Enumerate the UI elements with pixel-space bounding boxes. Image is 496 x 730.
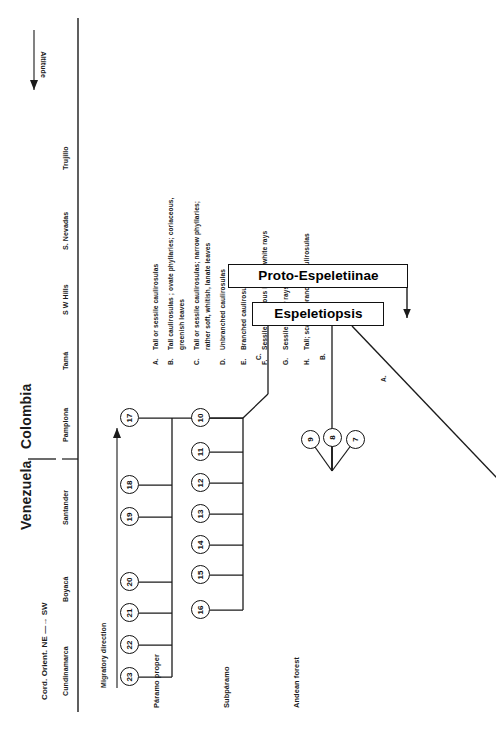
node-7[interactable]: 7 xyxy=(346,430,365,449)
box-espeletiopsis-label: Espeletiopsis xyxy=(274,307,362,322)
key-text-f: Sessile; sericeous leaves, white rays xyxy=(261,231,268,350)
key-letter-b: B. xyxy=(167,358,174,365)
key-text-e: Branched caulirosulas xyxy=(240,277,247,350)
region-label-cundinamarca: Cundinamarca xyxy=(62,646,69,696)
cordillera-header: Cord. Orient. NE —→ SW xyxy=(40,602,49,700)
key-letter-d: D. xyxy=(219,358,226,365)
country-label-venezuela: Venezuela xyxy=(18,460,34,530)
node-8[interactable]: 8 xyxy=(323,428,342,447)
zone-label-subparamo: Subpáramo xyxy=(222,666,231,708)
branch-label-c: C. xyxy=(255,353,262,360)
region-label-tama: Tamá xyxy=(62,352,69,370)
region-label-trujillo: Trujillo xyxy=(62,146,69,170)
box-proto-espeletiinae-label: Proto-Espeletiinae xyxy=(258,268,378,283)
migratory-direction-label: Migratory direction xyxy=(100,623,107,688)
region-label-santander: Santander xyxy=(62,490,69,525)
figure-canvas: Venezuela Colombia Cord. Orient. NE —→ S… xyxy=(0,0,496,730)
node-9[interactable]: 9 xyxy=(301,430,320,449)
key-letter-f: F. xyxy=(261,360,268,365)
box-proto-espeletiinae[interactable]: Proto-Espeletiinae xyxy=(228,264,408,288)
key-text-c: Tall or sessile caulirosulas; narrow phy… xyxy=(193,201,200,350)
figure-page: Venezuela Colombia Cord. Orient. NE —→ S… xyxy=(0,0,496,730)
key-letter-e: E. xyxy=(240,359,247,365)
key-text-c-cont: rather soft, whitish, lanate leaves xyxy=(204,243,211,350)
region-label-s-nevadas: S. Nevadas xyxy=(62,212,69,250)
key-letter-h: H. xyxy=(303,358,310,365)
region-label-boyaca: Boyacá xyxy=(62,576,69,602)
key-text-d: Unbranched caulirosulas xyxy=(219,269,226,350)
key-text-b: Tall caulirosulas ; ovate phyllaries; co… xyxy=(167,198,174,350)
altitude-label: Altitude xyxy=(40,51,47,78)
branch-label-a: A. xyxy=(380,375,387,382)
country-label-colombia: Colombia xyxy=(18,384,34,449)
key-text-h: Tall; scarcely branched caulirosulas xyxy=(303,233,310,350)
key-letter-g: G. xyxy=(282,358,289,365)
region-label-pamplona: Pamplona xyxy=(62,408,69,442)
key-letter-c: C. xyxy=(193,358,200,365)
region-label-sw-hills: S W Hills xyxy=(62,284,69,315)
box-espeletiopsis[interactable]: Espeletiopsis xyxy=(252,302,384,326)
key-text-a: Tall or sessile caulirosulas xyxy=(152,264,159,350)
zone-label-andean-forest: Andean forest xyxy=(292,657,301,708)
branch-label-b: B. xyxy=(319,353,326,360)
zone-label-paramo-proper: Páramo proper xyxy=(152,654,161,708)
diagram-linework xyxy=(0,0,496,730)
key-text-b-cont: greenish leaves xyxy=(178,299,185,350)
key-letter-a: A. xyxy=(152,358,159,365)
